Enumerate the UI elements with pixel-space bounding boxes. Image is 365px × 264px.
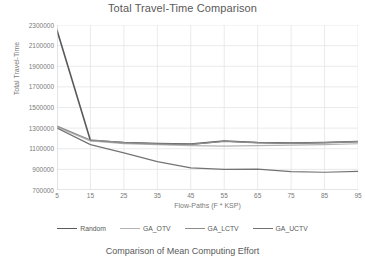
legend-item-ga_lctv[interactable]: GA_LCTV [185, 225, 239, 232]
x-tick-label: 75 [276, 192, 306, 199]
chart-canvas [57, 25, 358, 190]
series-line-ga_uctv [57, 128, 358, 172]
y-tick-label: 1300000 [2, 125, 54, 132]
chart-legend: RandomGA_OTVGA_LCTVGA_UCTV [0, 225, 365, 232]
legend-swatch-icon [185, 228, 205, 229]
legend-swatch-icon [253, 228, 273, 229]
y-tick-label: 1700000 [2, 83, 54, 90]
y-tick-label: 1100000 [2, 145, 54, 152]
series-lines [57, 30, 358, 172]
y-tick-label: 1900000 [2, 63, 54, 70]
legend-item-ga_uctv[interactable]: GA_UCTV [253, 225, 308, 232]
x-axis-label: Flow-Paths (F * KSP) [55, 202, 360, 209]
legend-label: Random [80, 225, 106, 232]
y-tick-label: 900000 [2, 166, 54, 173]
x-tick-label: 55 [209, 192, 239, 199]
legend-item-ga_otv[interactable]: GA_OTV [120, 225, 171, 232]
legend-swatch-icon [120, 228, 140, 229]
y-axis-tick-labels: 7000009000001100000130000015000001700000… [0, 0, 54, 200]
chart-figure: Total Travel-Time Comparison Total Trave… [0, 0, 365, 264]
x-tick-label: 95 [343, 192, 365, 199]
x-tick-label: 65 [243, 192, 273, 199]
x-tick-label: 35 [142, 192, 172, 199]
gridlines [57, 25, 358, 190]
y-tick-label: 2300000 [2, 22, 54, 29]
legend-item-random[interactable]: Random [57, 225, 106, 232]
plot-area [57, 25, 358, 190]
x-tick-label: 15 [75, 192, 105, 199]
y-tick-label: 1500000 [2, 104, 54, 111]
y-tick-label: 2100000 [2, 42, 54, 49]
figure-caption: Comparison of Mean Computing Effort [0, 246, 365, 256]
x-tick-label: 45 [176, 192, 206, 199]
x-tick-label: 25 [109, 192, 139, 199]
legend-label: GA_OTV [143, 225, 171, 232]
x-tick-label: 85 [310, 192, 340, 199]
legend-label: GA_UCTV [276, 225, 308, 232]
legend-label: GA_LCTV [208, 225, 239, 232]
legend-swatch-icon [57, 228, 77, 229]
x-tick-label: 5 [42, 192, 72, 199]
chart-title: Total Travel-Time Comparison [0, 2, 365, 14]
